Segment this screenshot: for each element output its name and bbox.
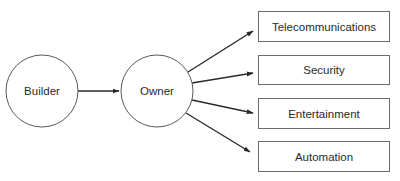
edge-owner-to-entertainment (192, 100, 253, 113)
builder-label: Builder (24, 85, 60, 97)
entertainment-label: Entertainment (288, 108, 360, 120)
node-owner: Owner (121, 55, 193, 127)
node-automation: Automation (259, 142, 390, 172)
edge-owner-to-security (192, 73, 253, 83)
node-builder: Builder (6, 55, 78, 127)
telecommunications-label: Telecommunications (272, 21, 376, 33)
security-label: Security (303, 64, 345, 76)
node-entertainment: Entertainment (259, 99, 390, 129)
edge-owner-to-telecommunications (188, 31, 253, 72)
diagram-canvas: Builder Owner Telecommunications Securit… (0, 0, 400, 181)
automation-label: Automation (295, 151, 353, 163)
owner-label: Owner (140, 85, 174, 97)
node-security: Security (259, 56, 390, 85)
node-telecommunications: Telecommunications (259, 12, 390, 42)
edge-owner-to-automation (186, 113, 250, 152)
